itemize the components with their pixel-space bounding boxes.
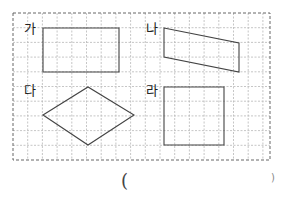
shape-label: 가 xyxy=(24,22,36,35)
shape-trapezoid xyxy=(164,28,239,72)
shape-label: 라 xyxy=(146,84,158,97)
answer-open-paren: ( xyxy=(121,170,128,191)
shape-square xyxy=(164,87,224,145)
answer-close-paren: ) xyxy=(271,172,275,183)
shape-label: 나 xyxy=(146,22,158,35)
grid-lines xyxy=(13,13,270,160)
shape-grid-figure xyxy=(0,0,281,197)
shape-label: 다 xyxy=(24,84,36,97)
shape-rectangle xyxy=(43,28,119,72)
